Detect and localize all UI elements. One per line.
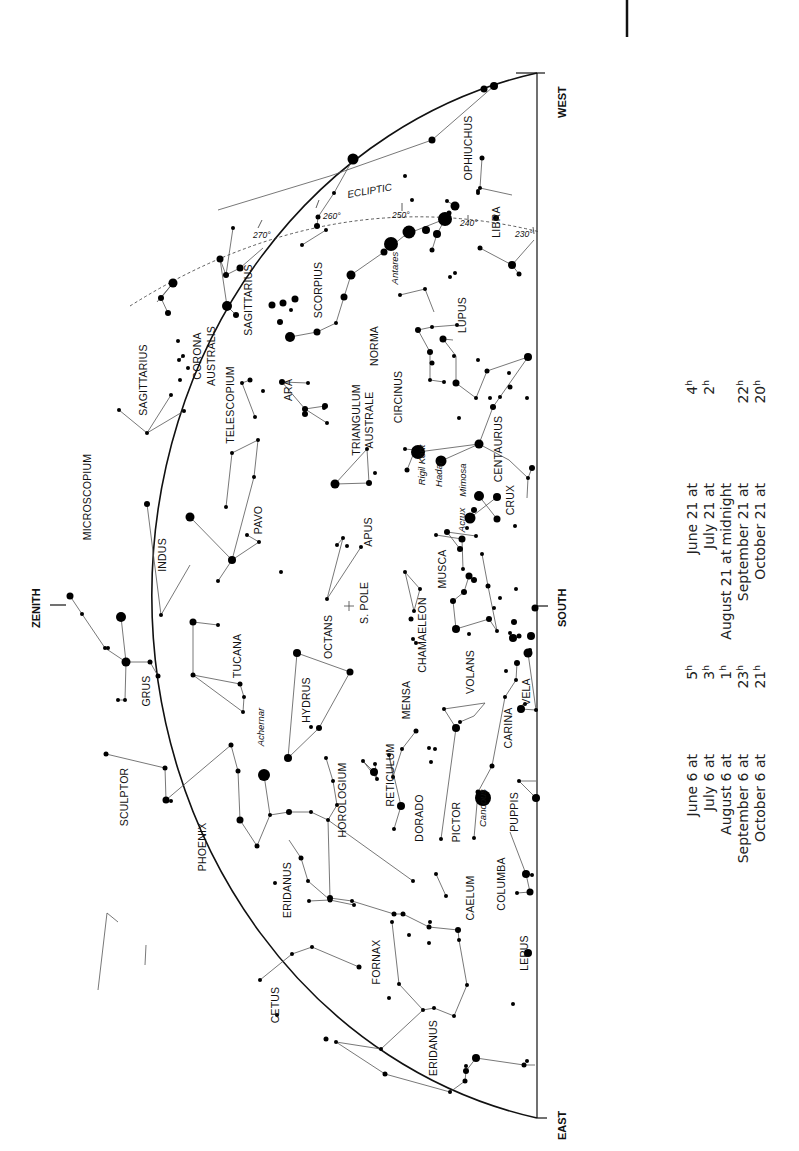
star-icon — [434, 533, 438, 537]
constellation-label: TUCANA — [231, 634, 243, 678]
star-icon — [522, 870, 530, 878]
star-icon — [169, 799, 173, 803]
star-icon — [448, 275, 452, 279]
star-icon — [314, 329, 321, 336]
star-icon — [409, 617, 414, 622]
star-icon — [310, 945, 314, 949]
constellation-line — [292, 947, 312, 954]
star-icon — [427, 349, 433, 355]
constellation-label: CHAMAELEON — [416, 597, 428, 673]
constellation-line — [392, 922, 399, 984]
star-icon — [481, 86, 488, 93]
constellation-label: PHOENIX — [196, 823, 208, 872]
star-icon — [428, 378, 432, 382]
star-icon — [233, 312, 239, 318]
constellation-line — [257, 815, 270, 846]
star-icon — [498, 395, 502, 399]
star-icon — [401, 912, 406, 917]
constellation-line — [402, 731, 416, 749]
star-icon — [504, 669, 508, 673]
sky-border — [152, 73, 537, 1118]
star-icon — [433, 230, 441, 238]
constellation-label: CORONA — [191, 332, 203, 379]
star-icon — [524, 353, 532, 361]
constellation-line — [301, 858, 308, 881]
star-icon — [144, 501, 150, 507]
star-icon — [490, 764, 495, 769]
constellation-label: SAGITTARIUS — [242, 264, 254, 335]
constellation-label: PAVO — [252, 506, 264, 534]
star-icon — [490, 404, 496, 410]
star-icon — [434, 872, 438, 876]
star-icon — [236, 769, 241, 774]
constellation-line — [254, 440, 258, 477]
star-icon — [334, 321, 338, 325]
constellation-label: VELA — [520, 678, 532, 706]
star-icon — [241, 710, 245, 714]
star-icon — [427, 925, 432, 930]
constellation-label: CRUX — [504, 485, 516, 516]
constellation-line — [288, 653, 297, 758]
star-icon — [163, 766, 168, 771]
star-icon — [292, 296, 299, 303]
constellation-line — [429, 927, 458, 930]
star-icon — [216, 579, 220, 583]
star-icon — [331, 779, 335, 783]
constellation-label: MICROSCOPIUM — [81, 454, 93, 540]
star-icon — [279, 570, 283, 574]
constellation-label: LUPUS — [456, 297, 468, 333]
star-icon — [228, 556, 236, 564]
constellation-line — [403, 914, 429, 927]
star-icon — [176, 339, 180, 343]
star-icon — [306, 879, 310, 883]
ecliptic-label: ECLIPTIC — [346, 181, 393, 200]
star-icon — [466, 573, 473, 580]
star-icon — [532, 605, 539, 612]
time-hour: 22h — [735, 380, 751, 404]
constellation-line — [493, 357, 528, 407]
star-icon — [526, 476, 530, 480]
constellation-label: OPHIUCHUS — [462, 116, 474, 181]
constellation-line — [226, 453, 232, 507]
star-icon — [430, 325, 434, 329]
star-icon — [530, 873, 534, 877]
star-icon — [403, 174, 407, 178]
star-icon — [438, 212, 452, 226]
star-icon — [229, 743, 234, 748]
star-icon — [332, 191, 336, 195]
star-icon — [335, 543, 339, 547]
star-icon — [182, 409, 186, 413]
star-icon — [465, 983, 469, 987]
ecliptic-degree: 240° — [459, 218, 478, 228]
south-pole-marker — [344, 601, 354, 611]
constellation-line — [430, 380, 444, 382]
star-icon — [284, 754, 292, 762]
constellation-line — [527, 478, 528, 498]
star-icon — [242, 695, 246, 699]
star-icon — [116, 698, 120, 702]
constellation-line — [247, 535, 259, 542]
star-icon — [300, 243, 304, 247]
star-icon — [314, 223, 320, 229]
star-name-label: Mimosa — [457, 463, 468, 496]
constellation-line — [319, 672, 350, 728]
constellation-line — [480, 188, 512, 195]
star-icon — [415, 327, 421, 333]
star-name-label: Achernar — [255, 707, 266, 747]
star-icon — [527, 632, 535, 640]
star-icon — [445, 199, 449, 203]
star-icon — [474, 534, 478, 538]
star-icon — [457, 938, 461, 942]
star-icon — [514, 678, 518, 682]
constellation-line — [447, 532, 460, 549]
star-icon — [405, 468, 410, 473]
star-icon — [411, 637, 415, 641]
ecliptic-degree: 260° — [322, 211, 341, 221]
star-icon — [190, 619, 197, 626]
time-date: September 6 at — [735, 753, 751, 863]
star-icon — [452, 354, 456, 358]
star-icon — [341, 536, 345, 540]
star-icon — [237, 817, 244, 824]
constellation-label: AUSTRALIS — [205, 326, 217, 386]
star-icon — [463, 1068, 469, 1074]
